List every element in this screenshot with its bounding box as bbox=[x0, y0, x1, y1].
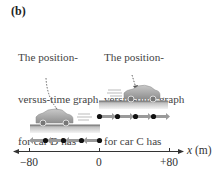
car-c-icon bbox=[99, 85, 168, 109]
tick-label-0: 0 bbox=[96, 156, 102, 168]
axis-label: x (m) bbox=[187, 144, 212, 156]
axis-arrow-left bbox=[13, 149, 19, 154]
tick-label-neg80: −80 bbox=[20, 156, 38, 168]
axis-arrow-right bbox=[178, 149, 184, 154]
car-c-motion-dots bbox=[97, 113, 170, 120]
tick-label-pos80: +80 bbox=[160, 156, 178, 168]
leader-arrow-car-d bbox=[46, 78, 58, 110]
x-axis bbox=[16, 148, 181, 152]
car-d-motion-dots bbox=[29, 137, 102, 144]
car-d-icon bbox=[30, 109, 100, 133]
axis-variable: x bbox=[187, 144, 192, 156]
diagram-graphics bbox=[0, 0, 214, 176]
motion-diagram-panel: (b) The position- versus-time graph for … bbox=[0, 0, 214, 176]
axis-unit: (m) bbox=[195, 144, 212, 156]
